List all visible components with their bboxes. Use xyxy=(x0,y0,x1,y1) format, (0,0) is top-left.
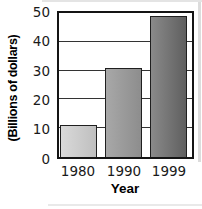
scan-artifact xyxy=(198,2,201,162)
x-axis-title: Year xyxy=(95,181,155,197)
x-tick-label-1990: 1990 xyxy=(102,163,146,179)
y-tick-label-10: 10 xyxy=(22,121,50,137)
y-tick-label-20: 20 xyxy=(22,92,50,108)
bar-1980 xyxy=(60,125,97,157)
y-axis-title: (Billions of dollars) xyxy=(5,13,21,163)
y-tick-label-0: 0 xyxy=(22,151,50,167)
bar-1999 xyxy=(150,16,187,157)
y-tick-label-40: 40 xyxy=(22,33,50,49)
bar-1990 xyxy=(105,68,142,157)
bar-chart-figure: (Billions of dollars) 0 10 20 30 40 50 1… xyxy=(0,0,202,209)
scan-artifact xyxy=(42,0,202,2)
plot-area xyxy=(57,11,194,159)
scan-artifact xyxy=(48,204,202,206)
x-tick-label-1999: 1999 xyxy=(147,163,191,179)
x-tick-label-1980: 1980 xyxy=(56,163,100,179)
y-tick-label-30: 30 xyxy=(22,63,50,79)
y-tick-label-50: 50 xyxy=(22,4,50,20)
